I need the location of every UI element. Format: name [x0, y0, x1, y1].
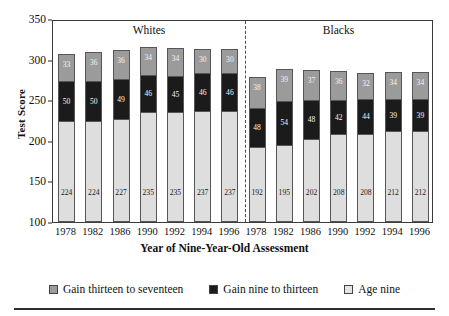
legend-item[interactable]: Age nine [344, 283, 400, 295]
stacked-bar[interactable]: 3350224 [58, 54, 75, 222]
segment-value-label: 34 [172, 55, 180, 63]
stacked-bar[interactable]: 3244208 [357, 73, 374, 222]
segment-gain-nine-to-thirteen[interactable]: 50 [85, 81, 102, 122]
stacked-bar[interactable]: 3954195 [276, 69, 293, 222]
segment-value-label: 235 [170, 189, 181, 197]
segment-age-nine[interactable]: 192 [249, 147, 266, 222]
segment-age-nine[interactable]: 212 [412, 131, 429, 222]
segment-gain-thirteen-to-seventeen[interactable]: 36 [85, 52, 102, 81]
segment-value-label: 237 [197, 189, 208, 197]
segment-gain-nine-to-thirteen[interactable]: 46 [140, 75, 157, 112]
segment-age-nine[interactable]: 237 [221, 111, 238, 222]
legend-label: Gain nine to thirteen [223, 283, 318, 295]
segment-gain-nine-to-thirteen[interactable]: 48 [249, 108, 266, 147]
segment-value-label: 195 [279, 189, 290, 197]
chart-legend: Gain thirteen to seventeenGain nine to t… [0, 283, 449, 295]
segment-value-label: 36 [335, 78, 343, 86]
segment-gain-thirteen-to-seventeen[interactable]: 34 [385, 72, 402, 100]
segment-gain-thirteen-to-seventeen[interactable]: 38 [249, 77, 266, 108]
segment-gain-thirteen-to-seventeen[interactable]: 30 [221, 49, 238, 73]
segment-gain-thirteen-to-seventeen[interactable]: 34 [140, 47, 157, 75]
segment-gain-thirteen-to-seventeen[interactable]: 39 [276, 69, 293, 101]
x-axis-tick-label: 1990 [137, 226, 158, 237]
segment-gain-thirteen-to-seventeen[interactable]: 34 [412, 72, 429, 100]
segment-age-nine[interactable]: 195 [276, 145, 293, 222]
segment-gain-nine-to-thirteen[interactable]: 46 [221, 73, 238, 110]
x-axis-tick-label: 1994 [382, 226, 403, 237]
segment-age-nine[interactable]: 212 [385, 131, 402, 222]
segment-age-nine[interactable]: 224 [85, 121, 102, 222]
segment-value-label: 38 [253, 84, 261, 92]
stacked-bar[interactable]: 3046237 [221, 49, 238, 222]
segment-age-nine[interactable]: 224 [58, 121, 75, 222]
segment-age-nine[interactable]: 227 [113, 119, 130, 222]
stacked-bar-chart: Test Score 100150200250300350 Whites Bla… [0, 0, 449, 316]
group-header-whites: Whites [53, 24, 245, 36]
segment-gain-nine-to-thirteen[interactable]: 42 [330, 100, 347, 134]
segment-gain-nine-to-thirteen[interactable]: 45 [167, 76, 184, 113]
segment-value-label: 39 [281, 76, 289, 84]
segment-value-label: 30 [226, 56, 234, 64]
segment-value-label: 48 [308, 116, 316, 124]
segment-value-label: 227 [115, 189, 126, 197]
segment-gain-thirteen-to-seventeen[interactable]: 36 [113, 50, 130, 79]
segment-gain-thirteen-to-seventeen[interactable]: 32 [357, 73, 374, 99]
segment-gain-nine-to-thirteen[interactable]: 44 [357, 99, 374, 135]
segment-gain-thirteen-to-seventeen[interactable]: 33 [58, 54, 75, 81]
segment-value-label: 44 [362, 113, 370, 121]
legend-item[interactable]: Gain nine to thirteen [209, 283, 318, 295]
segment-age-nine[interactable]: 208 [330, 134, 347, 222]
segment-age-nine[interactable]: 235 [140, 112, 157, 222]
segment-age-nine[interactable]: 208 [357, 134, 374, 222]
segment-value-label: 202 [306, 189, 317, 197]
segment-value-label: 39 [417, 112, 425, 120]
segment-gain-nine-to-thirteen[interactable]: 54 [276, 101, 293, 145]
stacked-bar[interactable]: 3439212 [385, 72, 402, 222]
legend-item[interactable]: Gain thirteen to seventeen [49, 283, 183, 295]
x-axis-title: Year of Nine-Year-Old Assessment [0, 242, 449, 254]
segment-gain-nine-to-thirteen[interactable]: 39 [412, 99, 429, 131]
stacked-bar[interactable]: 3439212 [412, 72, 429, 222]
segment-value-label: 46 [199, 89, 207, 97]
x-axis-tick-label: 1978 [55, 226, 76, 237]
segment-gain-thirteen-to-seventeen[interactable]: 34 [167, 48, 184, 76]
segment-value-label: 49 [117, 96, 125, 104]
group-header-blacks: Blacks [245, 24, 432, 36]
segment-age-nine[interactable]: 237 [194, 111, 211, 222]
segment-gain-thirteen-to-seventeen[interactable]: 37 [303, 70, 320, 100]
segment-gain-nine-to-thirteen[interactable]: 50 [58, 81, 75, 122]
y-axis-tick-label: 100 [20, 217, 46, 229]
segment-gain-nine-to-thirteen[interactable]: 49 [113, 79, 130, 119]
segment-gain-nine-to-thirteen[interactable]: 39 [385, 99, 402, 131]
segment-age-nine[interactable]: 235 [167, 112, 184, 222]
stacked-bar[interactable]: 3046237 [194, 49, 211, 222]
segment-value-label: 33 [63, 61, 71, 69]
stacked-bar[interactable]: 3650224 [85, 51, 102, 222]
segment-value-label: 224 [88, 189, 99, 197]
segment-value-label: 48 [253, 124, 261, 132]
stacked-bar[interactable]: 3445235 [167, 48, 184, 222]
legend-swatch-square-gray [49, 285, 58, 294]
segment-value-label: 208 [360, 189, 371, 197]
segment-value-label: 212 [387, 189, 398, 197]
plot-area: Whites Blacks 33502243650224364922734462… [52, 20, 433, 223]
stacked-bar[interactable]: 3748202 [303, 70, 320, 222]
segment-value-label: 224 [61, 189, 72, 197]
segment-age-nine[interactable]: 202 [303, 139, 320, 222]
group-separator-line [245, 21, 246, 222]
segment-value-label: 32 [362, 80, 370, 88]
segment-value-label: 46 [226, 89, 234, 97]
stacked-bar[interactable]: 3649227 [113, 50, 130, 222]
segment-value-label: 235 [143, 189, 154, 197]
segment-value-label: 36 [117, 57, 125, 65]
segment-gain-thirteen-to-seventeen[interactable]: 30 [194, 49, 211, 73]
x-axis-tick-label: 1982 [82, 226, 103, 237]
y-axis-tick-label: 200 [20, 136, 46, 148]
stacked-bar[interactable]: 3446235 [140, 47, 157, 222]
segment-value-label: 34 [417, 79, 425, 87]
segment-gain-thirteen-to-seventeen[interactable]: 36 [330, 71, 347, 100]
stacked-bar[interactable]: 3848192 [249, 77, 266, 222]
segment-gain-nine-to-thirteen[interactable]: 46 [194, 73, 211, 110]
stacked-bar[interactable]: 3642208 [330, 71, 347, 222]
segment-gain-nine-to-thirteen[interactable]: 48 [303, 100, 320, 139]
